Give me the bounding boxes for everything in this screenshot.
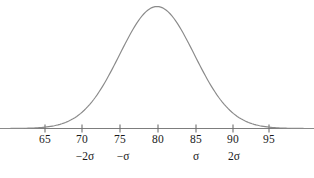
sigma-label-plus-sigma: σ [193, 151, 199, 163]
tick-label-70: 70 [76, 134, 88, 146]
distribution-plot [0, 0, 314, 178]
sigma-label-minus-2sigma: −2σ [76, 151, 94, 163]
sigma-label-minus-sigma: −σ [117, 151, 130, 163]
tick-label-80: 80 [152, 134, 164, 146]
tick-label-65: 65 [39, 134, 51, 146]
tick-label-95: 95 [263, 134, 275, 146]
sigma-label-plus-2sigma: 2σ [228, 151, 240, 163]
normal-distribution-figure: 65 70 75 80 85 90 95 −2σ −σ σ 2σ [0, 0, 314, 178]
tick-label-75: 75 [114, 134, 126, 146]
tick-label-85: 85 [190, 134, 202, 146]
tick-label-90: 90 [227, 134, 239, 146]
bell-curve-path [0, 7, 314, 129]
